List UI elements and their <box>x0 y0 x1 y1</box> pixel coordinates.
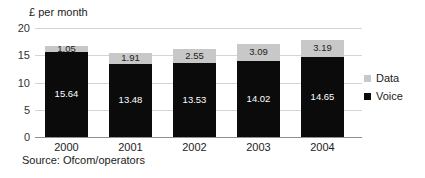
bar-segment-data-2002: 2.55 <box>173 49 216 63</box>
bar-segment-data-2001: 1.91 <box>109 53 152 63</box>
legend-label-data: Data <box>376 73 399 84</box>
voice-value-label: 13.48 <box>119 95 143 105</box>
y-tick-label-15: 15 <box>0 49 30 61</box>
bar-segment-voice-2003: 14.02 <box>237 61 280 137</box>
x-category-label-2002: 2002 <box>173 141 216 153</box>
data-value-label: 3.09 <box>249 47 268 57</box>
data-value-label: 2.55 <box>185 51 204 61</box>
source-note: Source: Ofcom/operators <box>22 154 145 166</box>
legend-item-data: Data <box>364 73 403 84</box>
stacked-bar-chart: £ per month 0510152015.641.05200013.481.… <box>0 0 425 178</box>
voice-value-label: 14.02 <box>247 94 271 104</box>
bar-segment-data-2000: 1.05 <box>45 46 88 52</box>
voice-value-label: 13.53 <box>183 95 207 105</box>
voice-value-label: 14.65 <box>311 92 335 102</box>
voice-series-swatch-icon <box>364 93 371 100</box>
bar-segment-data-2004: 3.19 <box>301 40 344 57</box>
bar-segment-voice-2000: 15.64 <box>45 52 88 137</box>
gridline-0 <box>35 137 362 138</box>
bar-segment-voice-2004: 14.65 <box>301 57 344 137</box>
legend: Data Voice <box>364 73 403 109</box>
bar-segment-data-2003: 3.09 <box>237 44 280 61</box>
gridline-20 <box>35 28 362 29</box>
data-value-label: 1.91 <box>121 53 140 63</box>
legend-label-voice: Voice <box>376 91 403 102</box>
x-category-label-2003: 2003 <box>237 141 280 153</box>
bar-segment-voice-2002: 13.53 <box>173 63 216 137</box>
data-series-swatch-icon <box>364 75 371 82</box>
y-tick-label-20: 20 <box>0 22 30 34</box>
y-tick-label-5: 5 <box>0 104 30 116</box>
y-tick-label-0: 0 <box>0 131 30 143</box>
y-tick-label-10: 10 <box>0 77 30 89</box>
chart-title: £ per month <box>29 6 88 18</box>
voice-value-label: 15.64 <box>55 89 79 99</box>
data-value-label: 1.05 <box>57 44 76 54</box>
bar-segment-voice-2001: 13.48 <box>109 64 152 137</box>
data-value-label: 3.19 <box>313 43 332 53</box>
x-category-label-2000: 2000 <box>45 141 88 153</box>
x-category-label-2001: 2001 <box>109 141 152 153</box>
legend-item-voice: Voice <box>364 91 403 102</box>
x-category-label-2004: 2004 <box>301 141 344 153</box>
